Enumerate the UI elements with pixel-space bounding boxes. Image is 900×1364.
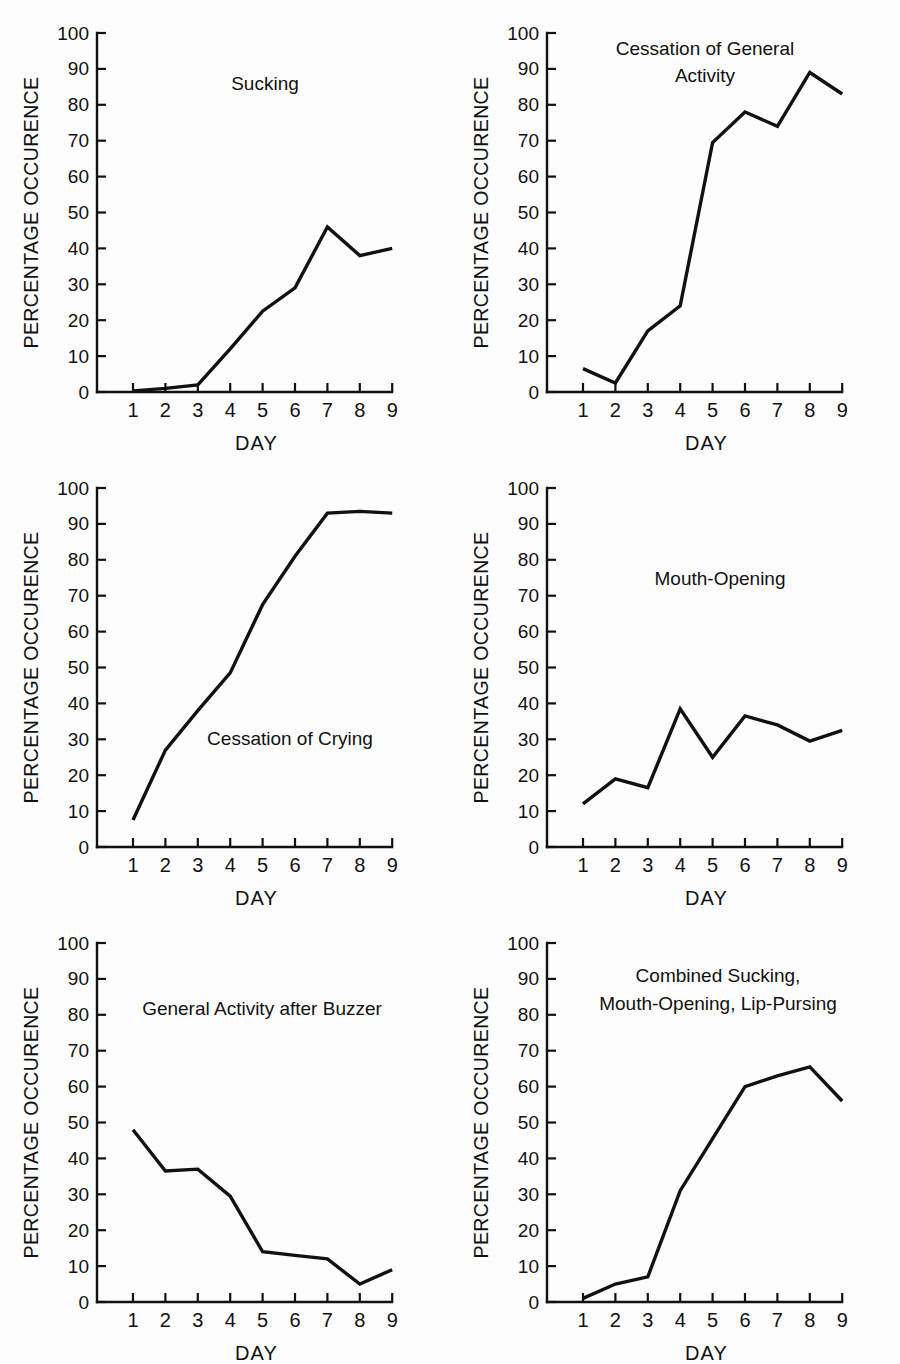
panel-title: Activity (675, 65, 736, 86)
x-axis-tick-label: 9 (837, 1309, 848, 1331)
y-axis-tick-label: 50 (518, 1112, 539, 1133)
y-axis-tick-label: 30 (518, 274, 539, 295)
y-axis-tick-label: 70 (518, 585, 539, 606)
y-axis-tick-label: 40 (68, 693, 89, 714)
y-axis-title: PERCENTAGE OCCURENCE (470, 986, 492, 1258)
y-axis-tick-label: 100 (57, 478, 89, 499)
x-axis-tick-label: 8 (804, 399, 815, 421)
x-axis-tick-label: 7 (322, 1309, 333, 1331)
y-axis-tick-label: 100 (57, 23, 89, 44)
y-axis-tick-label: 10 (518, 801, 539, 822)
x-axis-tick-label: 3 (642, 1309, 653, 1331)
chart-panel: 0102030405060708090100123456789DAYPERCEN… (0, 0, 450, 455)
x-axis-tick-label: 2 (160, 854, 171, 876)
y-axis-tick-label: 50 (518, 202, 539, 223)
x-axis-tick-label: 1 (577, 854, 588, 876)
y-axis-tick-label: 60 (518, 166, 539, 187)
x-axis-tick-label: 5 (257, 1309, 268, 1331)
chart-panel: 0102030405060708090100123456789DAYPERCEN… (450, 455, 900, 910)
y-axis-tick-label: 100 (507, 478, 539, 499)
x-axis-tick-label: 2 (160, 399, 171, 421)
y-axis-title: PERCENTAGE OCCURENCE (20, 76, 42, 348)
y-axis-tick-label: 20 (518, 1220, 539, 1241)
y-axis-tick-label: 30 (518, 729, 539, 750)
x-axis-tick-label: 5 (707, 1309, 718, 1331)
panel-title: Mouth-Opening, Lip-Pursing (599, 993, 837, 1014)
x-axis-tick-label: 6 (739, 854, 750, 876)
x-axis-title: DAY (235, 432, 278, 454)
chart-panel: 0102030405060708090100123456789DAYPERCEN… (450, 910, 900, 1364)
x-axis-title: DAY (685, 887, 728, 909)
x-axis-tick-label: 8 (354, 1309, 365, 1331)
x-axis-tick-label: 2 (160, 1309, 171, 1331)
x-axis-tick-label: 9 (387, 854, 398, 876)
y-axis-tick-label: 90 (518, 513, 539, 534)
x-axis-tick-label: 4 (225, 1309, 236, 1331)
y-axis-tick-label: 70 (68, 585, 89, 606)
y-axis-tick-label: 80 (518, 1004, 539, 1025)
x-axis-title: DAY (685, 432, 728, 454)
panel-title: Cessation of General (616, 38, 795, 59)
x-axis-tick-label: 8 (354, 854, 365, 876)
y-axis-tick-label: 50 (68, 202, 89, 223)
x-axis-title: DAY (685, 1342, 728, 1364)
y-axis-tick-label: 90 (518, 968, 539, 989)
x-axis-tick-label: 5 (257, 854, 268, 876)
y-axis-tick-label: 90 (68, 58, 89, 79)
y-axis-tick-label: 30 (68, 274, 89, 295)
x-axis-tick-label: 1 (127, 399, 138, 421)
y-axis-tick-label: 40 (518, 693, 539, 714)
x-axis-tick-label: 4 (675, 399, 686, 421)
chart-panel: 0102030405060708090100123456789DAYPERCEN… (450, 0, 900, 455)
y-axis-tick-label: 60 (518, 621, 539, 642)
x-axis-tick-label: 1 (577, 399, 588, 421)
x-axis-tick-label: 6 (739, 1309, 750, 1331)
y-axis-tick-label: 10 (68, 346, 89, 367)
y-axis-tick-label: 10 (68, 801, 89, 822)
x-axis-tick-label: 7 (772, 1309, 783, 1331)
x-axis-tick-label: 4 (675, 854, 686, 876)
x-axis-tick-label: 9 (837, 854, 848, 876)
y-axis-tick-label: 0 (78, 382, 89, 403)
y-axis-tick-label: 70 (518, 130, 539, 151)
y-axis-tick-label: 40 (518, 238, 539, 259)
y-axis-tick-label: 40 (68, 1148, 89, 1169)
x-axis-tick-label: 7 (322, 854, 333, 876)
x-axis-tick-label: 7 (772, 399, 783, 421)
x-axis-title: DAY (235, 1342, 278, 1364)
x-axis-tick-label: 9 (837, 399, 848, 421)
x-axis-tick-label: 6 (289, 1309, 300, 1331)
y-axis-tick-label: 90 (68, 968, 89, 989)
y-axis-tick-label: 50 (518, 657, 539, 678)
x-axis-tick-label: 2 (610, 854, 621, 876)
x-axis-tick-label: 4 (675, 1309, 686, 1331)
y-axis-tick-label: 0 (528, 837, 539, 858)
y-axis-tick-label: 20 (518, 765, 539, 786)
y-axis-tick-label: 20 (68, 310, 89, 331)
y-axis-tick-label: 50 (68, 657, 89, 678)
y-axis-tick-label: 90 (68, 513, 89, 534)
y-axis-title: PERCENTAGE OCCURENCE (20, 531, 42, 803)
x-axis-tick-label: 3 (192, 1309, 203, 1331)
x-axis-tick-label: 8 (804, 1309, 815, 1331)
x-axis-tick-label: 3 (192, 399, 203, 421)
y-axis-tick-label: 60 (518, 1076, 539, 1097)
x-axis-tick-label: 5 (707, 854, 718, 876)
chart-panel: 0102030405060708090100123456789DAYPERCEN… (0, 455, 450, 910)
data-series-line (583, 709, 842, 804)
y-axis-tick-label: 30 (68, 1184, 89, 1205)
x-axis-tick-label: 6 (289, 854, 300, 876)
y-axis-tick-label: 80 (68, 94, 89, 115)
y-axis-tick-label: 60 (68, 1076, 89, 1097)
x-axis-tick-label: 1 (127, 854, 138, 876)
y-axis-tick-label: 100 (57, 933, 89, 954)
y-axis-tick-label: 40 (518, 1148, 539, 1169)
y-axis-tick-label: 10 (518, 346, 539, 367)
x-axis-tick-label: 8 (804, 854, 815, 876)
y-axis-tick-label: 20 (518, 310, 539, 331)
x-axis-tick-label: 8 (354, 399, 365, 421)
y-axis-tick-label: 80 (68, 549, 89, 570)
y-axis-tick-label: 70 (68, 130, 89, 151)
panel-title: Combined Sucking, (636, 965, 801, 986)
y-axis-tick-label: 10 (68, 1256, 89, 1277)
